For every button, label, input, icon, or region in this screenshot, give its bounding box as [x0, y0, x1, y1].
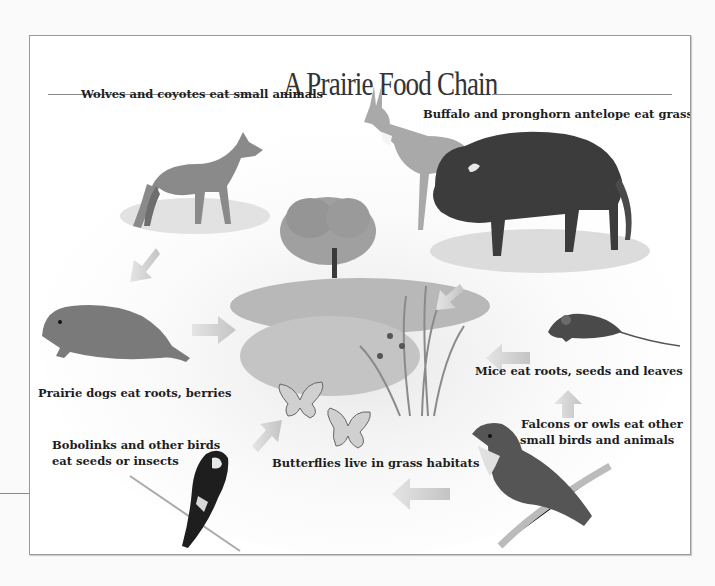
label-mice: Mice eat roots, seeds and leaves	[475, 363, 683, 379]
label-falcons-2: small birds and animals	[520, 432, 674, 448]
diagram-frame: A Prairie Food Chain	[29, 35, 691, 555]
label-prairie-dogs: Prairie dogs eat roots, berries	[38, 385, 231, 401]
label-bobolinks-2: eat seeds or insects	[52, 453, 179, 469]
outer-rule-line	[0, 493, 30, 494]
buffalo-icon	[430, 132, 650, 273]
label-butterflies: Butterflies live in grass habitats	[272, 455, 479, 471]
label-wolves: Wolves and coyotes eat small animals	[81, 86, 323, 102]
label-buffalo: Buffalo and pronghorn antelope eat grass	[423, 106, 691, 122]
label-bobolinks-1: Bobolinks and other birds	[52, 437, 220, 453]
label-falcons-1: Falcons or owls eat other	[521, 416, 683, 432]
